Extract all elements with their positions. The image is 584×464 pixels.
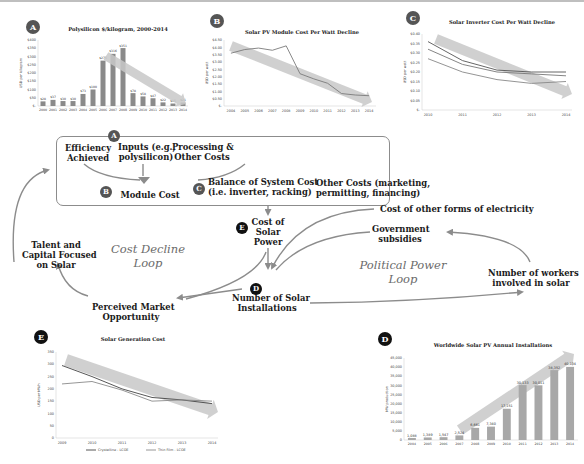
label-line: Other Costs (172, 152, 232, 162)
svg-text:2013: 2013 (178, 441, 187, 445)
node-government-subsidies: Government subsidies (372, 224, 428, 244)
label-line: Efficiency (60, 143, 116, 153)
svg-text:40,134: 40,134 (564, 362, 576, 366)
label-line: Government (372, 224, 428, 234)
node-module-cost: Module Cost (120, 190, 180, 200)
label-line: subsidies (372, 234, 428, 244)
svg-text:2007: 2007 (455, 442, 463, 446)
label-line: involved in solar (488, 278, 574, 288)
label-line: Installations (232, 303, 302, 313)
svg-text:30,000: 30,000 (390, 384, 402, 388)
label-political-power-loop: Political Power Loop (356, 258, 450, 286)
svg-text:15,000: 15,000 (390, 411, 402, 415)
svg-text:30,011: 30,011 (533, 381, 545, 385)
svg-text:2011: 2011 (519, 442, 527, 446)
badge-e-icon: E (236, 222, 248, 234)
label-line: Capital Focused (22, 250, 90, 260)
badge-e-icon: E (34, 330, 48, 344)
svg-text:USD per MWh: USD per MWh (37, 383, 41, 406)
svg-text:1,547: 1,547 (439, 433, 449, 437)
label-line: Power (250, 237, 286, 247)
svg-text:7,340: 7,340 (486, 422, 496, 426)
label-line: Opportunity (92, 312, 170, 322)
label-line: Loop (356, 272, 450, 286)
svg-text:40,000: 40,000 (390, 365, 402, 369)
svg-text:200: 200 (48, 387, 54, 391)
svg-text:35,000: 35,000 (390, 374, 402, 378)
svg-text:38,352: 38,352 (548, 366, 560, 370)
chart-e-title: Solar Generation Cost (88, 336, 178, 342)
label-line: Political Power (356, 258, 450, 272)
chart-e-generation-cost: E Solar Generation Cost 0501001502002503… (8, 328, 218, 460)
svg-text:2008: 2008 (471, 442, 479, 446)
node-processing-costs: Processing & Other Costs (172, 142, 232, 162)
svg-text:MW production: MW production (385, 386, 389, 412)
badge-a-icon: A (108, 130, 120, 142)
svg-text:2011: 2011 (118, 441, 127, 445)
label-line: Cost of (250, 217, 286, 227)
chart-d-title: Worldwide Solar PV Annual Installations (418, 342, 568, 348)
svg-text:20,000: 20,000 (390, 402, 402, 406)
svg-text:1,389: 1,389 (423, 433, 433, 437)
node-number-of-solar-installations: Number of Solar Installations (232, 293, 302, 313)
label-line: on Solar (22, 260, 90, 270)
chart-d-installations: D Worldwide Solar PV Annual Installation… (378, 328, 584, 460)
label-line: polysilicon) (118, 152, 174, 162)
svg-text:45,000: 45,000 (390, 356, 402, 360)
badge-c-icon: C (193, 183, 205, 195)
node-efficiency-achieved: Efficiency Achieved (60, 143, 116, 163)
svg-text:1,088: 1,088 (407, 434, 417, 438)
svg-text:2014: 2014 (208, 441, 217, 445)
svg-text:17,151: 17,151 (501, 404, 513, 408)
label-line: Balance of System Cost (208, 177, 302, 187)
node-number-of-workers: Number of workers involved in solar (488, 268, 574, 288)
label-line: Talent and (22, 240, 90, 250)
label-line: Number of workers (488, 268, 574, 278)
svg-text:2005: 2005 (424, 442, 432, 446)
svg-text:2012: 2012 (534, 442, 542, 446)
chart-e-plot: 050100150200250300350USD per MWh20092010… (8, 346, 218, 460)
svg-text:2012: 2012 (148, 441, 157, 445)
badge-b-icon: B (100, 186, 112, 198)
label-line: Other Costs (marketing, (316, 178, 380, 188)
svg-text:150: 150 (48, 399, 54, 403)
chart-d-plot: 05,00010,00015,00020,00025,00030,00035,0… (378, 350, 584, 454)
svg-text:2013: 2013 (550, 442, 558, 446)
label-line: Solar (250, 227, 286, 237)
svg-text:10,000: 10,000 (390, 420, 402, 424)
svg-text:100: 100 (48, 412, 54, 416)
label-line: permitting, financing) (316, 188, 380, 198)
svg-text:2014: 2014 (566, 442, 574, 446)
label-line: Achieved (60, 153, 116, 163)
svg-text:2009: 2009 (58, 441, 67, 445)
node-inputs: Inputs (e.g., polysilicon) (118, 142, 174, 162)
svg-text:0: 0 (52, 436, 54, 440)
svg-text:350: 350 (48, 350, 54, 354)
svg-text:Crystalline - LCOE: Crystalline - LCOE (98, 448, 128, 452)
svg-text:Thin Film - LCOE: Thin Film - LCOE (157, 448, 186, 452)
svg-text:250: 250 (48, 375, 54, 379)
svg-text:50: 50 (50, 424, 54, 428)
label-line: (i.e. inverter, racking) (208, 187, 302, 197)
label-line: Inputs (e.g., (118, 142, 174, 152)
node-cost-other-electricity: Cost of other forms of electricity (380, 204, 534, 214)
node-perceived-market-opportunity: Perceived Market Opportunity (92, 302, 170, 322)
node-other-costs: Other Costs (marketing, permitting, fina… (316, 178, 380, 198)
label-line: Perceived Market (92, 302, 170, 312)
svg-text:2006: 2006 (439, 442, 447, 446)
node-talent-capital: Talent and Capital Focused on Solar (22, 240, 90, 270)
node-cost-of-solar-power: Cost of Solar Power (250, 217, 286, 247)
svg-text:300: 300 (48, 362, 54, 366)
svg-text:2010: 2010 (88, 441, 97, 445)
svg-text:2009: 2009 (487, 442, 495, 446)
svg-text:6,661: 6,661 (470, 423, 480, 427)
node-balance-of-system-cost: Balance of System Cost (i.e. inverter, r… (208, 177, 302, 197)
badge-d-icon: D (378, 332, 392, 346)
svg-text:2004: 2004 (408, 442, 416, 446)
svg-text:2010: 2010 (503, 442, 511, 446)
label-line: Loop (108, 256, 188, 270)
svg-text:0: 0 (400, 438, 402, 442)
label-cost-decline-loop: Cost Decline Loop (108, 242, 188, 270)
svg-text:30,133: 30,133 (517, 381, 529, 385)
svg-text:25,000: 25,000 (390, 393, 402, 397)
